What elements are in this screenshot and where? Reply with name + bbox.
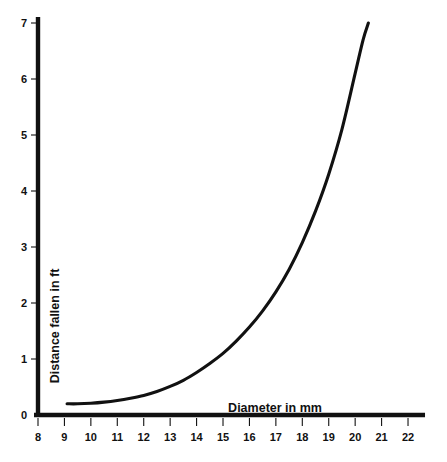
x-axis-tick-label: 8 bbox=[35, 431, 41, 443]
x-axis-tick-label: 13 bbox=[164, 431, 176, 443]
series-line-distance-fallen bbox=[67, 23, 368, 404]
x-axis-tick-label: 12 bbox=[138, 431, 150, 443]
y-axis-tick-label: 6 bbox=[21, 73, 27, 85]
y-axis-tick-label: 3 bbox=[21, 241, 27, 253]
x-axis-title: Diameter in mm bbox=[228, 401, 322, 415]
x-axis: 8910111213141516171819202122 bbox=[34, 415, 425, 443]
chart-canvas: 01234567 8910111213141516171819202122 Di… bbox=[0, 0, 447, 462]
x-axis-tick-label: 20 bbox=[349, 431, 361, 443]
y-axis-tick-label: 1 bbox=[21, 353, 27, 365]
x-axis-tick-label: 14 bbox=[190, 431, 203, 443]
x-axis-tick-label: 17 bbox=[270, 431, 282, 443]
x-axis-tick-label: 11 bbox=[111, 431, 123, 443]
y-axis-tick-label: 2 bbox=[21, 297, 27, 309]
y-axis: 01234567 bbox=[21, 17, 38, 421]
x-axis-tick-label: 15 bbox=[217, 431, 229, 443]
x-axis-tick-label: 21 bbox=[375, 431, 387, 443]
x-axis-tick-label: 10 bbox=[85, 431, 97, 443]
x-axis-tick-label: 22 bbox=[402, 431, 414, 443]
axis-titles: Diameter in mmDistance fallen in ft bbox=[48, 268, 322, 415]
y-axis-tick-label: 0 bbox=[21, 409, 27, 421]
x-axis-tick-label: 19 bbox=[323, 431, 335, 443]
y-axis-tick-label: 5 bbox=[21, 129, 27, 141]
x-axis-tick-label: 9 bbox=[61, 431, 67, 443]
x-axis-tick-label: 16 bbox=[243, 431, 255, 443]
chart-figure: 01234567 8910111213141516171819202122 Di… bbox=[0, 0, 447, 462]
y-axis-tick-label: 7 bbox=[21, 17, 27, 29]
y-axis-tick-label: 4 bbox=[21, 185, 28, 197]
data-series-distance-fallen bbox=[67, 23, 368, 404]
y-axis-title: Distance fallen in ft bbox=[48, 268, 62, 383]
x-axis-tick-label: 18 bbox=[296, 431, 308, 443]
